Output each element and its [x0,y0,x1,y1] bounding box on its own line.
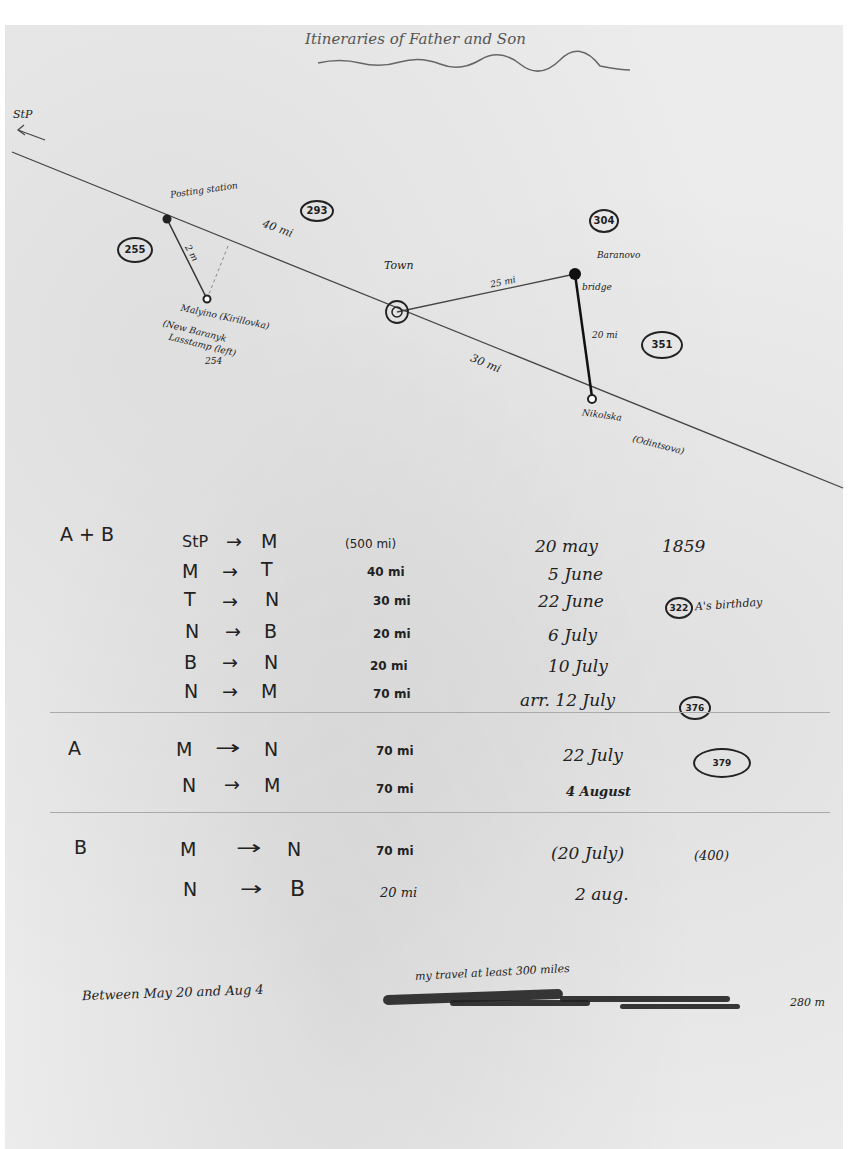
arrow-icon: → [236,836,261,858]
row-from: N [184,680,198,702]
row-from: N [183,878,197,900]
row-date: 22 June [538,591,604,611]
row-from: T [184,588,196,610]
row-distance: (500 mi) [345,537,396,551]
row-distance: 20 mi [373,627,411,641]
distance-tail-note: 280 m [790,996,825,1009]
section-divider [50,812,830,813]
row-date: 5 June [548,564,603,584]
section-label-b: B [74,836,87,858]
row-to: N [287,838,301,860]
row-from: N [185,620,199,642]
row-date: arr. 12 July [520,690,615,710]
place-malyino-sub3: 254 [205,356,222,366]
distance-baranovo-to-nikolska: 20 mi [592,330,618,340]
row-from: M [180,838,196,860]
row-from: M [176,738,192,760]
route-label-stp: StP [13,108,32,121]
row-date: 10 July [548,656,608,676]
circled-number-right: 351 [641,331,683,359]
row-to: N [264,651,278,673]
place-town: Town [384,259,414,272]
arrow-icon: → [240,877,262,899]
row-to: B [290,876,305,901]
row-from: M [182,560,198,582]
row-distance: 70 mi [376,844,414,858]
arrow-icon: → [222,560,238,582]
row-distance: 20 mi [380,885,417,900]
row-date: 6 July [548,625,597,645]
row-distance: 70 mi [373,687,411,701]
row-to: M [261,530,277,552]
arrow-icon: → [222,651,238,673]
row-date: 20 may [535,536,598,556]
arrow-icon: → [226,530,242,552]
row-to: M [261,680,277,702]
row-from: B [184,651,197,673]
section-label-a: A [68,737,81,759]
row-distance: 30 mi [373,594,411,608]
circled-number-376: 376 [679,696,711,720]
row-extra: (400) [694,848,729,863]
row-distance: 70 mi [376,782,414,796]
arrow-icon: → [222,590,238,612]
circled-number-top-right: 304 [589,209,619,233]
row-date: (20 July) [551,843,624,863]
arrow-icon: → [224,773,240,795]
row-from: StP [182,532,208,551]
row-distance: 20 mi [370,659,408,673]
place-baranovo: Baranovo [597,250,640,260]
circled-number-379: 379 [693,748,751,778]
row-to: N [264,738,278,760]
arrow-icon: → [225,620,241,642]
crossed-out-text [560,996,730,1002]
circled-number-322: 322 [665,597,693,619]
arrow-icon: → [215,736,240,758]
section-label-a-plus-b: A + B [60,523,114,545]
row-distance: 70 mi [376,744,414,758]
row-year: 1859 [662,536,705,556]
arrow-icon: → [222,680,238,702]
row-date: 2 aug. [575,884,629,904]
row-to: N [265,588,279,610]
row-to: T [261,558,273,580]
circled-number-left: 255 [117,237,153,263]
circled-number-top-center: 293 [300,200,334,222]
row-to: B [264,620,277,642]
section-divider [50,712,830,713]
row-from: N [182,774,196,796]
row-distance: 40 mi [367,565,405,579]
place-bridge: bridge [582,282,612,292]
crossed-out-text [620,1004,740,1009]
row-date: 22 July [563,745,623,765]
row-to: M [264,774,280,796]
row-date: 4 August [566,784,631,799]
